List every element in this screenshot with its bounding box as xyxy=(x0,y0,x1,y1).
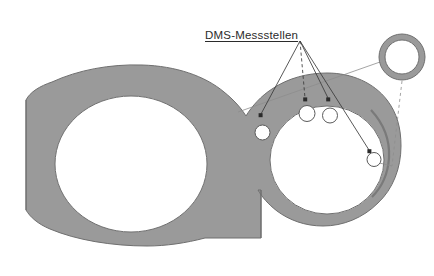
arrowhead-4 xyxy=(367,149,371,153)
detail-ring-callout xyxy=(379,34,425,80)
big-eye-bore xyxy=(55,96,207,232)
measurement-point-2[interactable] xyxy=(299,106,315,122)
arrowhead-2 xyxy=(303,97,307,101)
figure-canvas: DMS-Messstellen xyxy=(0,0,434,276)
arrowhead-3 xyxy=(326,97,330,101)
measurement-point-3[interactable] xyxy=(323,108,338,123)
measurement-point-1[interactable] xyxy=(255,125,270,140)
arrowhead-1 xyxy=(259,113,263,117)
dms-measurement-points-label: DMS-Messstellen xyxy=(205,30,298,42)
measurement-point-4[interactable] xyxy=(367,153,381,167)
